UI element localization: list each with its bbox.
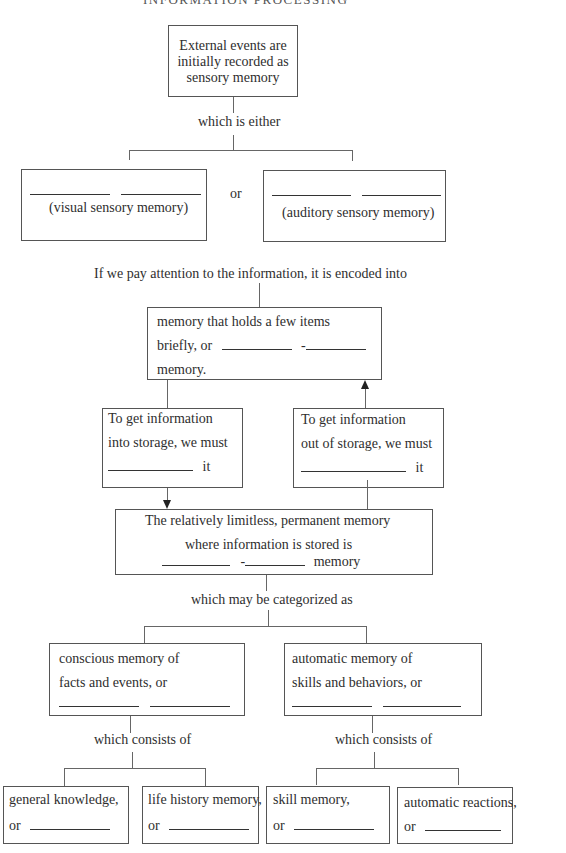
connector-line	[367, 480, 368, 510]
which-is-either-label: which is either	[198, 114, 280, 130]
auditory-caption: (auditory sensory memory)	[282, 205, 434, 221]
fill-in-blank[interactable]	[294, 829, 374, 830]
leaf-or-label: or	[273, 818, 285, 833]
connector-line	[144, 626, 367, 627]
fill-in-blank[interactable]	[121, 194, 201, 195]
implicit-line-2: skills and behaviors, or	[292, 675, 422, 691]
hyphen: -	[301, 338, 306, 353]
short-term-memory-box: memory that holds a few items briefly, o…	[147, 307, 382, 380]
connector-line	[458, 768, 459, 785]
auditory-sensory-memory-box: (auditory sensory memory)	[263, 170, 446, 242]
connector-line	[374, 752, 375, 768]
fill-in-blank[interactable]	[306, 349, 366, 350]
or-label: or	[230, 186, 242, 202]
connector-line	[366, 626, 367, 643]
consists-of-right-label: which consists of	[335, 732, 432, 748]
fill-in-blank[interactable]	[272, 195, 351, 196]
retrieve-line-2: out of storage, we must	[301, 436, 432, 452]
explicit-line-1: conscious memory of	[59, 651, 180, 667]
fill-in-blank[interactable]	[292, 706, 372, 707]
hyphen: -	[241, 554, 246, 569]
leaf-box-general-knowledge: general knowledge, or	[3, 786, 129, 844]
stm-line-2-prefix: briefly, or	[157, 338, 212, 353]
connector-line	[129, 150, 130, 160]
connector-line	[167, 380, 168, 409]
implicit-line-1: automatic memory of	[292, 651, 413, 667]
fill-in-blank[interactable]	[30, 829, 110, 830]
fill-in-blank[interactable]	[59, 706, 139, 707]
connector-line	[352, 150, 353, 161]
fill-in-blank[interactable]	[383, 706, 461, 707]
connector-line	[233, 97, 234, 113]
connector-line	[64, 768, 65, 786]
sensory-memory-box: External events are initially recorded a…	[168, 25, 298, 97]
stm-line-3: memory.	[157, 362, 206, 378]
ltm-line-1: The relatively limitless, permanent memo…	[145, 513, 390, 529]
connector-line	[316, 768, 459, 769]
connector-line	[132, 752, 133, 768]
connector-line	[64, 768, 206, 769]
long-term-memory-box: The relatively limitless, permanent memo…	[115, 509, 433, 575]
fill-in-blank[interactable]	[301, 471, 406, 472]
fill-in-blank[interactable]	[362, 195, 441, 196]
connector-line	[259, 283, 260, 307]
attention-encoding-text: If we pay attention to the information, …	[94, 266, 407, 282]
visual-sensory-memory-box: (visual sensory memory)	[21, 169, 207, 241]
visual-caption: (visual sensory memory)	[49, 200, 188, 216]
fill-in-blank[interactable]	[162, 565, 230, 566]
sensory-line-3: sensory memory	[169, 70, 297, 86]
leaf-or-label: or	[404, 819, 416, 834]
fill-in-blank[interactable]	[222, 349, 292, 350]
leaf-or-label: or	[148, 818, 160, 833]
connector-line	[205, 768, 206, 786]
leaf-or-label: or	[9, 818, 21, 833]
connector-line	[144, 626, 145, 643]
connector-line	[268, 610, 269, 626]
categorized-as-label: which may be categorized as	[191, 592, 353, 608]
fill-in-blank[interactable]	[108, 470, 193, 471]
stm-line-1: memory that holds a few items	[157, 314, 330, 330]
fill-in-blank[interactable]	[150, 706, 230, 707]
fill-in-blank[interactable]	[30, 194, 110, 195]
retrieve-line-1: To get information	[301, 412, 406, 428]
arrow-down-icon	[163, 500, 171, 509]
encode-line-3-suffix: it	[203, 459, 211, 474]
ltm-line-3-suffix: memory	[314, 554, 361, 569]
leaf-line-1: general knowledge,	[9, 792, 119, 808]
sensory-line-1: External events are	[169, 38, 297, 54]
encode-into-storage-box: To get information into storage, we must…	[102, 408, 243, 488]
connector-line	[233, 135, 234, 150]
encode-line-2: into storage, we must	[108, 435, 228, 451]
fill-in-blank[interactable]	[245, 565, 305, 566]
ltm-line-2: where information is stored is	[185, 537, 352, 553]
retrieve-line-3-suffix: it	[416, 460, 424, 475]
encode-line-1: To get information	[108, 411, 213, 427]
leaf-box-automatic-reactions: automatic reactions, or	[397, 787, 513, 844]
connector-line	[316, 768, 317, 785]
explicit-memory-box: conscious memory of facts and events, or	[49, 643, 245, 716]
explicit-line-2: facts and events, or	[59, 675, 167, 691]
page-header-cut-off: INFORMATION PROCESSING	[143, 0, 348, 8]
consists-of-left-label: which consists of	[94, 732, 191, 748]
arrow-up-icon	[361, 380, 369, 389]
leaf-box-skill-memory: skill memory, or	[266, 786, 390, 844]
leaf-line-1: automatic reactions,	[404, 795, 517, 811]
leaf-line-1: skill memory,	[273, 792, 350, 808]
fill-in-blank[interactable]	[169, 829, 249, 830]
fill-in-blank[interactable]	[425, 830, 501, 831]
sensory-line-2: initially recorded as	[169, 54, 297, 70]
leaf-box-life-history-memory: life history memory, or	[142, 786, 259, 844]
retrieve-out-of-storage-box: To get information out of storage, we mu…	[293, 408, 444, 488]
leaf-line-1: life history memory,	[148, 792, 262, 808]
connector-line	[372, 716, 373, 733]
connector-line	[365, 388, 366, 409]
connector-line	[130, 716, 131, 733]
implicit-memory-box: automatic memory of skills and behaviors…	[284, 643, 482, 716]
connector-line	[266, 575, 267, 591]
connector-line	[129, 150, 353, 151]
